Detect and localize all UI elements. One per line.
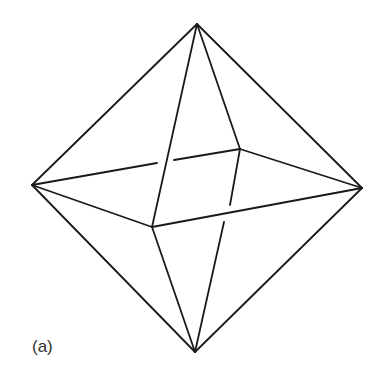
edge-right-back [240, 149, 362, 188]
edge-bottom-front [152, 227, 195, 352]
edge-bottom-right [195, 188, 362, 352]
octahedron-diagram [0, 0, 388, 388]
figure-label: (a) [32, 337, 53, 357]
edge-top-right [197, 24, 362, 188]
edge-bottom-left [32, 185, 195, 352]
edge-top-left [32, 24, 197, 185]
edge-top-back [197, 24, 240, 149]
edge-right-front [152, 188, 362, 227]
edge-left-front [32, 185, 152, 227]
edge-left-back [174, 149, 240, 160]
edge-top-front [152, 24, 197, 227]
edge-bottom-back [195, 222, 224, 352]
edge-bottom-back [230, 149, 240, 205]
